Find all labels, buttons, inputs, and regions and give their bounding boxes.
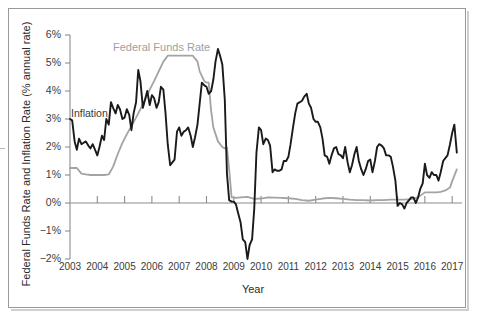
- y-axis-title: Federal Funds Rate and Inflation Rate (%…: [20, 22, 32, 287]
- x-axis-title: Year: [242, 283, 265, 295]
- y-tick-label: 1%: [46, 168, 61, 180]
- frame-shadow-bottom: [11, 309, 469, 311]
- x-tick-label: 2006: [141, 261, 164, 272]
- y-tick-label: −1%: [40, 224, 61, 236]
- x-tick-label: 2004: [86, 261, 109, 272]
- chart-figure: −2%−1%0%1%2%3%4%5%6% 2003200420052006200…: [8, 8, 466, 308]
- y-axis: −2%−1%0%1%2%3%4%5%6%: [40, 28, 70, 264]
- series-label-federal-funds-rate: Federal Funds Rate: [113, 41, 210, 53]
- frame-shadow-right: [467, 11, 469, 311]
- y-tick-label: 2%: [46, 140, 61, 152]
- y-tick-label: 6%: [46, 28, 61, 40]
- federal-funds-rate-line: [70, 56, 457, 201]
- y-tick-label: 5%: [46, 56, 61, 68]
- x-tick-label: 2014: [359, 261, 382, 272]
- y-tick-label: 0%: [46, 196, 61, 208]
- x-tick-label: 2005: [113, 261, 136, 272]
- x-tick-label: 2016: [414, 261, 437, 272]
- screenshot-page: −2%−1%0%1%2%3%4%5%6% 2003200420052006200…: [0, 0, 477, 322]
- x-tick-label: 2013: [332, 261, 355, 272]
- page-edge-rule: [0, 148, 5, 149]
- y-tick-label: 3%: [46, 112, 61, 124]
- x-tick-label: 2017: [441, 261, 464, 272]
- y-tick-label: 4%: [46, 84, 61, 96]
- inflation-line: [70, 49, 457, 259]
- x-tick-label: 2003: [59, 261, 82, 272]
- x-tick-label: 2007: [168, 261, 191, 272]
- x-tick-label: 2010: [250, 261, 273, 272]
- series-label-inflation: Inflation: [71, 107, 108, 119]
- data-series-group: [70, 49, 457, 259]
- x-tick-label: 2009: [223, 261, 246, 272]
- x-tick-label: 2015: [386, 261, 409, 272]
- x-tick-label: 2011: [278, 261, 300, 272]
- x-tick-label: 2012: [305, 261, 328, 272]
- x-tick-label: 2008: [195, 261, 218, 272]
- y-tick-label: −2%: [40, 252, 61, 264]
